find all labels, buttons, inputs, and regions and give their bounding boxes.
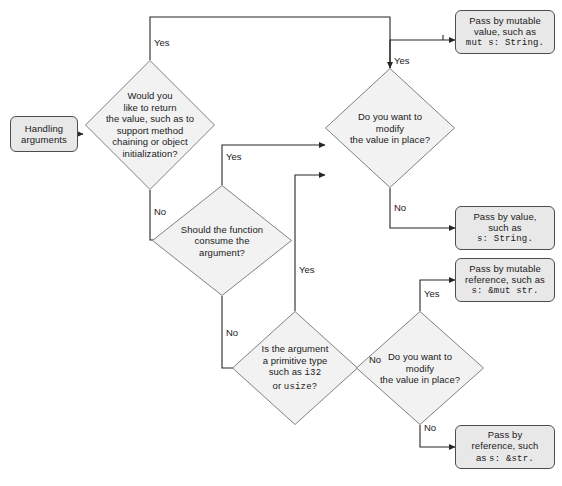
outcome-pass-by-reference[interactable]: Pass by reference, such as s: &str. [455,425,555,469]
outcome-pass-by-mutable-value-line-2: value, such as [474,26,536,38]
outcome-pass-by-value[interactable]: Pass by value, such as s: String. [455,206,555,250]
decision-return-value[interactable]: Would you like to return the value, such… [85,60,215,190]
outcome-pass-by-value-line-2: such as [488,222,521,234]
outcome-pass-by-mutable-value-code: mut s: String. [466,38,544,50]
outcome-pass-by-mutable-reference[interactable]: Pass by mutable reference, such as s: &m… [455,258,555,302]
outcome-pass-by-reference-line-3-text: as [476,452,489,463]
decision-modify-in-place-top[interactable]: Do you want to modify the value in place… [325,68,455,188]
outcome-pass-by-value-line-1: Pass by value, [473,211,536,223]
decision-modify-in-place-bottom-shape [356,311,484,425]
decision-primitive-type-shape [232,311,358,425]
outcome-pass-by-reference-code: s: &str. [489,454,534,464]
edge-label-modify-bottom-yes: Yes [424,289,440,299]
flowchart-canvas: Handling arguments Would you like to ret… [0,0,562,486]
edge-label-consume-no: No [226,328,238,338]
start-node-line-1: Handling [25,123,63,135]
edge-label-primitive-yes: Yes [299,265,315,275]
outcome-pass-by-mutable-reference-code: s: &mut str. [471,286,538,298]
start-node-handling-arguments[interactable]: Handling arguments [10,116,78,152]
decision-modify-in-place-top-shape [325,68,455,188]
outcome-pass-by-reference-line-2: reference, such [472,440,539,452]
outcome-pass-by-mutable-value-line-1: Pass by mutable [469,15,541,27]
outcome-pass-by-reference-line-1: Pass by [488,429,523,441]
decision-modify-in-place-bottom[interactable]: Do you want to modify the value in place… [356,311,484,425]
start-node-line-2: arguments [21,134,67,146]
edge-label-modify-top-no: No [394,203,406,213]
decision-return-value-shape [85,60,215,190]
edge-label-modify-top-yes: Yes [394,56,410,66]
edge-label-return-no: No [154,207,166,217]
outcome-pass-by-value-code: s: String. [477,234,533,246]
edge-label-return-yes: Yes [154,38,170,48]
outcome-pass-by-mutable-reference-line-1: Pass by mutable [469,263,541,275]
edge-label-modify-bottom-no: No [424,423,436,433]
outcome-pass-by-reference-line-3: as s: &str. [476,452,534,466]
decision-primitive-type[interactable]: Is the argument a primitive type such as… [232,311,358,425]
outcome-pass-by-mutable-value[interactable]: Pass by mutable value, such as mut s: St… [455,10,555,54]
decision-consume-argument-shape [152,185,292,296]
decision-consume-argument[interactable]: Should the function consume the argument… [152,185,292,296]
outcome-pass-by-mutable-reference-line-2: reference, such as [465,274,545,286]
edge-label-primitive-no: No [369,355,381,365]
edge-label-consume-yes: Yes [226,152,242,162]
